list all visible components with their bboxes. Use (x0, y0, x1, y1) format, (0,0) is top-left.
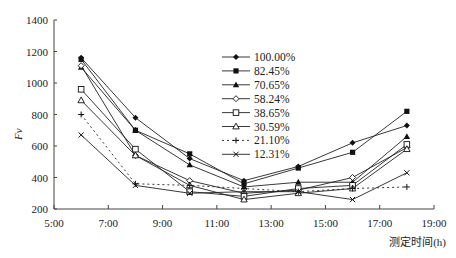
legend-label: 82.45% (254, 65, 290, 77)
y-tick-label: 200 (32, 203, 49, 215)
legend-label: 100.00% (254, 51, 296, 63)
legend-item: 38.65% (222, 107, 290, 119)
legend-item: 12.31% (222, 148, 290, 160)
axes: 2004006008001000120014005:007:009:0011:0… (26, 14, 447, 229)
y-axis-title: Fv (12, 128, 24, 141)
y-tick-label: 800 (32, 109, 49, 121)
legend-label: 38.65% (254, 107, 290, 119)
series-10000 (78, 55, 410, 184)
y-tick-label: 400 (32, 172, 49, 184)
y-tick-label: 1400 (26, 14, 49, 26)
y-tick-label: 1000 (26, 77, 49, 89)
legend-item: 30.59% (222, 121, 290, 133)
series-lines (78, 55, 410, 202)
x-tick-label: 9:00 (153, 217, 173, 229)
legend-label: 58.24% (254, 93, 290, 105)
legend-label: 30.59% (254, 121, 290, 133)
x-tick-label: 17:00 (367, 217, 393, 229)
legend-item: 21.10% (222, 134, 290, 146)
legend-item: 82.45% (222, 65, 290, 77)
legend-label: 21.10% (254, 134, 290, 146)
legend-label: 70.65% (254, 79, 290, 91)
x-tick-label: 5:00 (44, 217, 64, 229)
legend: 100.00%82.45%70.65%58.24%38.65%30.59%21.… (222, 51, 296, 160)
x-tick-label: 15:00 (313, 217, 339, 229)
x-tick-label: 7:00 (99, 217, 119, 229)
legend-item: 100.00% (222, 51, 296, 63)
legend-label: 12.31% (254, 148, 290, 160)
x-tick-label: 11:00 (205, 217, 230, 229)
legend-item: 58.24% (222, 93, 290, 105)
line-chart: 2004006008001000120014005:007:009:0011:0… (0, 0, 456, 258)
y-tick-label: 1200 (26, 46, 49, 58)
x-tick-label: 19:00 (421, 217, 447, 229)
x-axis-title: 测定时间(h) (389, 235, 446, 249)
y-tick-label: 600 (32, 140, 49, 152)
x-tick-label: 13:00 (259, 217, 285, 229)
legend-item: 70.65% (222, 79, 290, 91)
